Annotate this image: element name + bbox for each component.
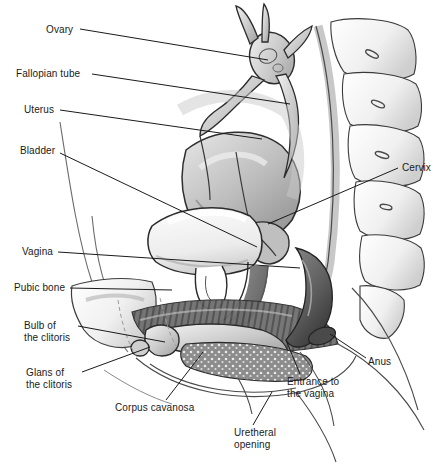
label-vagina: Vagina	[22, 246, 53, 258]
label-corpus-cavanosa: Corpus cavanosa	[115, 402, 194, 414]
label-entrance-vagina: Entrance to the vagina	[287, 376, 339, 399]
label-glans-of-clitoris: Glans of the clitoris	[26, 367, 72, 390]
label-ovary: Ovary	[46, 24, 73, 36]
label-bulb-of-clitoris: Bulb of the clitoris	[24, 320, 70, 343]
label-anus: Anus	[368, 356, 391, 368]
anatomy-diagram: OvaryFallopian tubeUterusBladderVaginaPu…	[0, 0, 448, 466]
label-uterus: Uterus	[24, 104, 54, 116]
label-uretheral-opening: Uretheral opening	[234, 427, 276, 450]
label-cervix: Cervix	[402, 162, 431, 174]
label-fallopian-tube: Fallopian tube	[16, 68, 80, 80]
label-bladder: Bladder	[20, 145, 55, 157]
label-pubic-bone: Pubic bone	[14, 282, 65, 294]
